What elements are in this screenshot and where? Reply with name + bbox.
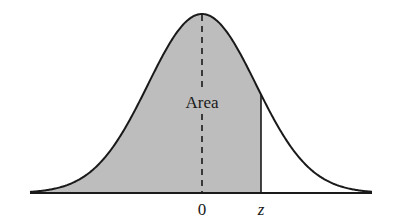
tick-label-zero: 0 bbox=[198, 200, 207, 219]
area-label: Area bbox=[185, 93, 218, 112]
tick-label-z: z bbox=[257, 200, 265, 219]
normal-curve-figure: Area 0 z bbox=[0, 0, 394, 223]
shaded-area-left-of-z bbox=[30, 14, 261, 193]
